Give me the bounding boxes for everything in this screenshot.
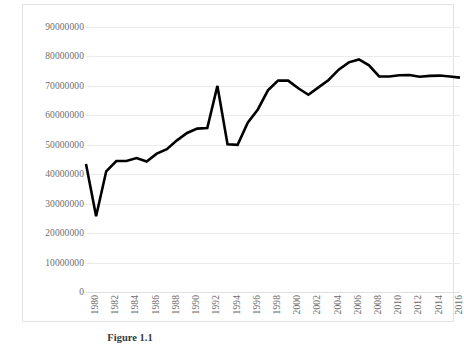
y-axis-tick-label: 60000000 <box>45 110 84 120</box>
x-axis-tick-label: 2008 <box>373 295 383 314</box>
x-axis-tick-label: 2004 <box>333 295 343 314</box>
x-axis-tick-label: 1980 <box>90 295 100 314</box>
y-axis-tick-label: 70000000 <box>45 81 84 91</box>
x-axis-tick-label: 1984 <box>130 295 140 314</box>
line-series-svg <box>86 27 460 292</box>
y-axis-tick-label: 30000000 <box>45 199 84 209</box>
y-axis-label-group: 9000000080000000700000006000000050000000… <box>47 27 84 292</box>
x-axis-tick-label: 1982 <box>110 295 120 314</box>
x-axis-tick-label: 2012 <box>413 295 423 314</box>
y-axis-tick-label: 20000000 <box>45 228 84 238</box>
y-axis-tick-label: 90000000 <box>45 22 84 32</box>
x-axis-tick-label: 2002 <box>312 295 322 314</box>
x-axis-tick-label: 2010 <box>393 295 403 314</box>
y-axis-tick-label: 80000000 <box>45 51 84 61</box>
y-axis-tick-label: 50000000 <box>45 140 84 150</box>
y-axis-tick-label: 40000000 <box>45 169 84 179</box>
gridline <box>86 292 460 293</box>
figure-container: 9000000080000000700000006000000050000000… <box>0 0 464 344</box>
x-axis-tick-label: 1990 <box>191 295 201 314</box>
x-axis-tick-label: 2016 <box>454 295 464 314</box>
x-axis-tick-label: 2014 <box>434 295 444 314</box>
y-axis-tick-label: 0 <box>79 287 84 297</box>
figure-caption: Figure 1.1 <box>0 332 260 343</box>
x-axis-tick-label: 1996 <box>252 295 262 314</box>
x-axis-tick-label: 1992 <box>211 295 221 314</box>
y-axis-tick-label: 10000000 <box>45 258 84 268</box>
x-axis-tick-label: 1988 <box>171 295 181 314</box>
plot-area <box>86 27 460 292</box>
x-axis-tick-label: 2006 <box>353 295 363 314</box>
line-series-path <box>86 59 460 216</box>
x-axis-tick-label: 1986 <box>151 295 161 314</box>
x-axis-tick-label: 1994 <box>232 295 242 314</box>
x-axis-tick-label: 2000 <box>292 295 302 314</box>
chart-frame: 9000000080000000700000006000000050000000… <box>22 4 454 322</box>
x-axis-tick-label: 1998 <box>272 295 282 314</box>
x-axis-label-group: 1980198219841986198819901992199419961998… <box>86 295 460 327</box>
